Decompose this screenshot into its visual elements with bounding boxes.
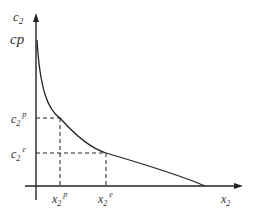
diagram-canvas: c2 cp c2p c2e x2p x2e x2 [0, 0, 254, 214]
x2p-label: x2p [51, 190, 67, 208]
x-axis-label: x2 [220, 192, 230, 208]
curve [37, 40, 205, 186]
y-axis-label: c2 [13, 9, 24, 26]
c2p-label: c2p [11, 110, 26, 128]
y-intercept-label: cp [10, 31, 25, 47]
x2e-label: x2e [97, 190, 113, 208]
y-axis-arrow-icon [33, 13, 39, 22]
x-axis-arrow-icon [234, 183, 243, 189]
c2e-label: c2e [11, 145, 26, 163]
